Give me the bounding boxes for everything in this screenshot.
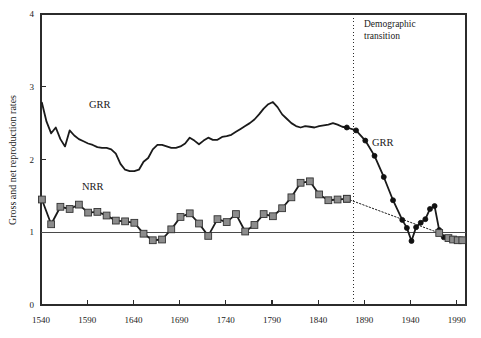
data-point-marker-square [159,236,166,243]
data-point-marker-square [270,213,277,220]
x-tick-label: 1540 [32,315,51,325]
data-point-marker-square [103,212,110,219]
chart-root: 01234 1540159016401690174017901840189019… [0,0,481,338]
x-tick-label: 1840 [309,315,328,325]
y-axis-title: Gross and net reproduction rates [7,95,18,225]
data-point-marker-square [39,196,46,203]
data-point-marker-square [66,206,73,213]
y-tick-label: 0 [30,300,35,310]
data-point-marker-square [85,209,92,216]
data-point-marker-square [122,218,129,225]
series-label-nrr-early: NRR [82,181,104,192]
data-point-marker-circle [418,220,423,225]
data-point-marker-square [223,219,230,226]
data-point-marker-square [168,226,175,233]
series-label-grr-early: GRR [89,99,111,110]
data-point-marker-square [131,219,138,226]
x-tick-label: 1990 [448,315,467,325]
data-point-marker-square [149,237,156,244]
data-point-marker-circle [363,138,368,143]
data-point-marker-circle [391,198,396,203]
data-point-marker-circle [381,174,386,179]
x-tick-label: 1790 [263,315,282,325]
x-tick-label: 1640 [124,315,143,325]
data-point-marker-circle [344,125,349,130]
annotation-demographic-transition-line1: Demographic [364,19,416,29]
data-point-marker-circle [409,238,414,243]
annotation-demographic-transition-line2: transition [364,31,400,41]
data-point-marker-square [288,194,295,201]
data-point-marker-circle [414,225,419,230]
data-point-marker-square [186,210,193,217]
data-point-marker-square [214,216,221,223]
x-tick-label: 1940 [402,315,421,325]
data-point-marker-circle [432,204,437,209]
data-point-marker-square [306,178,313,185]
x-tick-label: 1690 [171,315,190,325]
data-point-marker-square [48,221,55,228]
reproduction-rates-chart: 01234 1540159016401690174017901840189019… [0,0,481,338]
y-tick-label: 3 [30,82,35,92]
data-point-marker-circle [400,217,405,222]
data-point-marker-circle [404,225,409,230]
data-point-marker-circle [427,206,432,211]
data-point-marker-square [75,201,82,208]
data-point-marker-circle [354,128,359,133]
data-point-marker-square [459,237,466,244]
x-tick-label: 1740 [217,315,236,325]
data-point-marker-square [316,191,323,198]
data-point-marker-square [436,230,443,237]
chart-background [0,0,481,338]
data-point-marker-square [57,203,64,210]
data-point-marker-square [260,211,267,218]
data-point-marker-square [112,217,119,224]
x-tick-label: 1890 [355,315,374,325]
data-point-marker-square [177,214,184,221]
data-point-marker-circle [423,217,428,222]
data-point-marker-square [297,179,304,186]
series-label-grr-late: GRR [372,137,394,148]
data-point-marker-square [205,232,212,239]
y-tick-label: 1 [30,227,35,237]
y-tick-label: 2 [30,155,35,165]
data-point-marker-square [325,197,332,204]
data-point-marker-square [196,220,203,227]
data-point-marker-square [140,230,147,237]
data-point-marker-square [343,195,350,202]
data-point-marker-circle [372,153,377,158]
data-point-marker-square [94,208,101,215]
data-point-marker-square [251,222,258,229]
y-tick-label: 4 [30,9,35,19]
data-point-marker-square [334,196,341,203]
data-point-marker-square [242,228,249,235]
x-tick-label: 1590 [78,315,97,325]
data-point-marker-square [233,211,240,218]
data-point-marker-square [279,205,286,212]
